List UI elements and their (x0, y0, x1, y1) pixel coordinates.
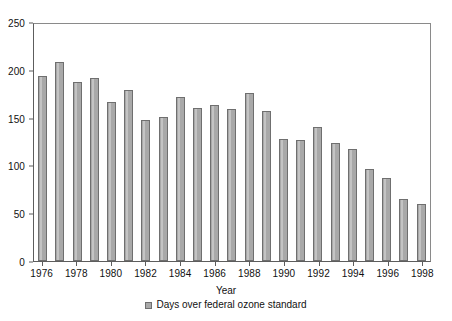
x-tick-mark (319, 262, 320, 266)
x-tick-label: 1998 (411, 268, 434, 279)
x-tick-label: 1982 (134, 268, 157, 279)
x-tick-label: 1980 (100, 268, 123, 279)
bar-chart-figure: 050100150200250 197619781980198219841986… (0, 0, 452, 321)
x-tick-mark (145, 262, 146, 266)
bar (55, 62, 64, 261)
bar-series (34, 24, 430, 261)
x-tick-mark (76, 262, 77, 266)
x-tick-label: 1984 (169, 268, 192, 279)
x-tick-label: 1988 (238, 268, 261, 279)
y-tick-label: 0 (19, 257, 25, 268)
x-tick-mark (353, 262, 354, 266)
y-tick-label: 100 (8, 161, 25, 172)
x-tick-mark (42, 262, 43, 266)
x-axis: 1976197819801982198419861988199019921994… (33, 262, 431, 286)
x-tick-label: 1996 (376, 268, 399, 279)
bar (73, 82, 82, 261)
x-tick-mark (111, 262, 112, 266)
bar (124, 90, 133, 261)
y-tick-label: 200 (8, 65, 25, 76)
x-tick-mark (388, 262, 389, 266)
bar (417, 204, 426, 261)
bar (107, 102, 116, 261)
x-tick-mark (422, 262, 423, 266)
bar (365, 169, 374, 261)
bar (313, 127, 322, 261)
bar (176, 97, 185, 261)
bar (296, 140, 305, 261)
y-tick-label: 250 (8, 18, 25, 29)
legend-label: Days over federal ozone standard (156, 300, 306, 310)
bar (262, 111, 271, 261)
bar (38, 76, 47, 261)
bar (331, 143, 340, 261)
x-tick-label: 1990 (273, 268, 296, 279)
bar (279, 139, 288, 261)
y-tick-label: 50 (14, 209, 25, 220)
x-tick-label: 1986 (203, 268, 226, 279)
y-tick-label: 150 (8, 113, 25, 124)
bar (348, 149, 357, 261)
bar (245, 93, 254, 261)
x-tick-label: 1994 (342, 268, 365, 279)
bar (193, 108, 202, 261)
x-tick-label: 1976 (30, 268, 53, 279)
x-axis-title: Year (0, 285, 452, 296)
legend-swatch-icon (145, 302, 152, 309)
bar (227, 109, 236, 261)
x-tick-mark (215, 262, 216, 266)
bar (141, 120, 150, 261)
y-axis: 050100150200250 (0, 0, 33, 321)
x-tick-mark (180, 262, 181, 266)
bar (90, 78, 99, 261)
plot-area (33, 23, 431, 262)
bar (210, 105, 219, 261)
bar (382, 178, 391, 261)
x-tick-label: 1978 (65, 268, 88, 279)
chart-legend: Days over federal ozone standard (0, 300, 452, 310)
x-tick-mark (249, 262, 250, 266)
bar (399, 199, 408, 261)
x-tick-label: 1992 (307, 268, 330, 279)
bar (159, 117, 168, 261)
x-tick-mark (284, 262, 285, 266)
